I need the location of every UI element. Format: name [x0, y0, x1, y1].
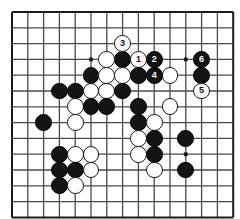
stone-black-7-3[interactable] — [114, 51, 131, 68]
stone-white-10-4[interactable] — [162, 67, 179, 84]
move-number-label: 3 — [120, 39, 125, 48]
stone-white-4-9[interactable] — [67, 146, 84, 163]
stone-white-4-11[interactable] — [67, 177, 84, 194]
stone-white-9-10[interactable] — [146, 162, 163, 179]
stone-black-4-10[interactable] — [67, 162, 84, 179]
stone-black-5-4[interactable] — [83, 67, 100, 84]
move-number-label: 1 — [136, 54, 141, 63]
move-stone-1-white[interactable]: 1 — [130, 51, 147, 68]
stone-black-2-7[interactable] — [35, 114, 52, 131]
stone-white-8-9[interactable] — [130, 146, 147, 163]
stone-black-11-10[interactable] — [177, 162, 194, 179]
stone-black-8-6[interactable] — [130, 98, 147, 115]
stone-black-7-5[interactable] — [114, 83, 131, 100]
stone-white-4-6[interactable] — [67, 98, 84, 115]
move-number-label: 5 — [199, 86, 204, 95]
stone-black-4-5[interactable] — [67, 83, 84, 100]
move-stone-3-white[interactable]: 3 — [114, 35, 131, 52]
stone-white-4-7[interactable] — [67, 114, 84, 131]
stone-layer[interactable]: 312645 — [0, 0, 240, 219]
stone-black-8-4[interactable] — [130, 67, 147, 84]
stone-white-7-4[interactable] — [114, 67, 131, 84]
stone-black-9-8[interactable] — [146, 130, 163, 147]
stone-white-5-9[interactable] — [83, 146, 100, 163]
stone-black-3-11[interactable] — [51, 177, 68, 194]
go-diagram: 312645 — [0, 0, 240, 219]
move-number-label: 6 — [199, 54, 204, 63]
stone-white-9-7[interactable] — [146, 114, 163, 131]
stone-black-5-6[interactable] — [83, 98, 100, 115]
move-stone-6-black[interactable]: 6 — [193, 51, 210, 68]
move-stone-5-white[interactable]: 5 — [193, 83, 210, 100]
stone-black-3-5[interactable] — [51, 83, 68, 100]
stone-white-6-5[interactable] — [98, 83, 115, 100]
stone-white-5-5[interactable] — [83, 83, 100, 100]
stone-black-3-9[interactable] — [51, 146, 68, 163]
stone-white-5-10[interactable] — [83, 162, 100, 179]
stone-black-12-4[interactable] — [193, 67, 210, 84]
stone-white-6-3[interactable] — [98, 51, 115, 68]
stone-black-3-10[interactable] — [51, 162, 68, 179]
stone-black-8-7[interactable] — [130, 114, 147, 131]
stone-black-11-8[interactable] — [177, 130, 194, 147]
move-stone-2-black[interactable]: 2 — [146, 51, 163, 68]
stone-white-6-4[interactable] — [98, 67, 115, 84]
move-number-label: 4 — [152, 70, 157, 79]
stone-white-10-6[interactable] — [162, 98, 179, 115]
stone-black-9-9[interactable] — [146, 146, 163, 163]
stone-black-6-6[interactable] — [98, 98, 115, 115]
stone-white-8-8[interactable] — [130, 130, 147, 147]
move-stone-4-black[interactable]: 4 — [146, 67, 163, 84]
move-number-label: 2 — [152, 54, 157, 63]
